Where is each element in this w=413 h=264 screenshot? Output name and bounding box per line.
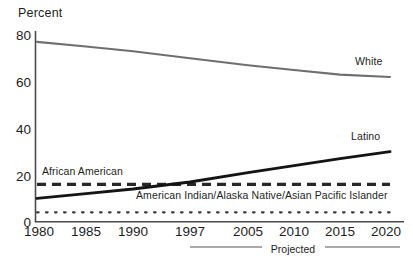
percent-by-race-line-chart: Percent 80 60 40 20 0 1980 1985 1990 199… [0,0,413,264]
plot-area [0,0,413,264]
series-line-white [37,42,390,77]
series-line-latino [37,152,390,199]
